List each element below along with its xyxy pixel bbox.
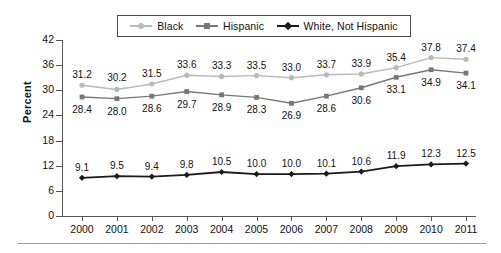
point-label: 28.6 xyxy=(135,103,169,114)
data-point xyxy=(464,71,469,76)
point-label: 33.6 xyxy=(170,59,204,70)
point-label: 10.6 xyxy=(344,156,378,167)
data-point xyxy=(254,95,259,100)
data-point xyxy=(323,171,329,177)
data-point xyxy=(219,74,224,79)
point-label: 28.9 xyxy=(205,102,239,113)
data-point xyxy=(184,73,189,78)
point-label: 29.7 xyxy=(170,99,204,110)
data-point xyxy=(359,71,364,76)
point-label: 33.1 xyxy=(379,84,413,95)
data-point xyxy=(80,95,85,100)
data-point xyxy=(289,101,294,106)
data-point xyxy=(79,175,85,181)
point-label: 10.5 xyxy=(205,156,239,167)
data-point xyxy=(289,75,294,80)
data-point xyxy=(114,173,120,179)
point-label: 31.5 xyxy=(135,68,169,79)
data-point xyxy=(324,72,329,77)
point-label: 28.0 xyxy=(100,106,134,117)
data-point xyxy=(79,83,84,88)
chart-plot xyxy=(0,0,501,253)
data-point xyxy=(149,94,154,99)
point-label: 31.2 xyxy=(65,69,99,80)
data-point xyxy=(429,67,434,72)
point-label: 28.3 xyxy=(240,104,274,115)
point-label: 9.8 xyxy=(170,159,204,170)
data-point xyxy=(149,81,154,86)
point-label: 37.8 xyxy=(414,42,448,53)
data-point xyxy=(219,169,225,175)
data-point xyxy=(463,161,469,167)
data-point xyxy=(324,94,329,99)
point-label: 33.0 xyxy=(274,62,308,73)
point-label: 37.4 xyxy=(449,43,483,54)
data-point xyxy=(184,172,190,178)
data-point xyxy=(149,174,155,180)
point-label: 30.2 xyxy=(100,72,134,83)
data-point xyxy=(358,168,364,174)
point-label: 28.4 xyxy=(65,104,99,115)
data-point xyxy=(359,85,364,90)
point-label: 33.5 xyxy=(240,60,274,71)
point-label: 9.5 xyxy=(100,160,134,171)
point-label: 10.1 xyxy=(309,158,343,169)
data-point xyxy=(114,87,119,92)
point-label: 12.3 xyxy=(414,148,448,159)
data-point xyxy=(219,93,224,98)
point-label: 11.9 xyxy=(379,150,413,161)
data-point xyxy=(115,96,120,101)
data-point xyxy=(184,89,189,94)
point-label: 33.3 xyxy=(205,60,239,71)
point-label: 12.5 xyxy=(449,148,483,159)
point-label: 9.1 xyxy=(65,162,99,173)
point-label: 34.1 xyxy=(449,80,483,91)
point-label: 10.0 xyxy=(274,158,308,169)
data-point xyxy=(394,65,399,70)
point-label: 26.9 xyxy=(274,110,308,121)
data-point xyxy=(394,75,399,80)
point-label: 34.9 xyxy=(414,77,448,88)
point-label: 10.0 xyxy=(240,158,274,169)
point-label: 28.6 xyxy=(309,103,343,114)
point-label: 9.4 xyxy=(135,161,169,172)
point-label: 35.4 xyxy=(379,52,413,63)
footer-divider xyxy=(18,243,486,244)
data-point xyxy=(288,171,294,177)
data-point xyxy=(254,73,259,78)
data-point xyxy=(393,163,399,169)
point-label: 33.9 xyxy=(344,58,378,69)
point-label: 33.7 xyxy=(309,59,343,70)
data-point xyxy=(428,55,433,60)
chart-screenshot: Black Hispanic White, Not Hispanic Perce… xyxy=(0,0,501,253)
data-point xyxy=(253,171,259,177)
data-point xyxy=(428,161,434,167)
point-label: 30.6 xyxy=(344,95,378,106)
data-point xyxy=(463,57,468,62)
